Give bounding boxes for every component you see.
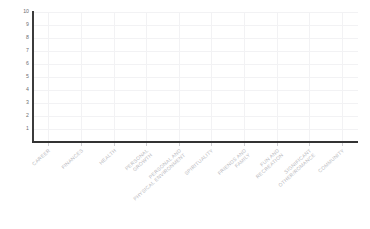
x-tickmark (211, 143, 212, 146)
y-tick-label: 8 (13, 35, 29, 40)
gridline-vertical (179, 12, 180, 142)
x-tickmark (114, 143, 115, 146)
y-axis-tick-labels: 10 9 8 7 6 5 4 3 2 1 (10, 12, 29, 142)
y-tick-label: 6 (13, 61, 29, 66)
x-category-label-health: HEALTH (98, 148, 117, 166)
x-tickmark (81, 143, 82, 146)
x-category-label-career: CAREER (31, 148, 51, 167)
gridline-vertical (81, 12, 82, 142)
x-category-label-community: COMMUNITY (317, 148, 345, 174)
gridline-vertical (309, 12, 310, 142)
x-category-label-spirituality: SPIRITUALITY (184, 148, 215, 177)
gridline-vertical (211, 12, 212, 142)
x-tickmark (48, 143, 49, 146)
y-axis (32, 11, 34, 143)
x-tickmark (277, 143, 278, 146)
x-tickmark (244, 143, 245, 146)
gridline-vertical (48, 12, 49, 142)
y-tick-label: 4 (13, 87, 29, 92)
gridline-vertical (146, 12, 147, 142)
wheel-of-life-chart: 10 9 8 7 6 5 4 3 2 1 CAREER FINANCES HEA… (0, 0, 370, 229)
gridline-vertical (244, 12, 245, 142)
y-tick-label: 9 (13, 22, 29, 27)
x-tickmark (179, 143, 180, 146)
y-tick-label: 2 (13, 113, 29, 118)
x-tickmark (309, 143, 310, 146)
x-tickmark (146, 143, 147, 146)
x-tickmark (342, 143, 343, 146)
gridline-vertical (277, 12, 278, 142)
gridline-vertical (342, 12, 343, 142)
y-tick-label: 5 (13, 74, 29, 79)
gridline-vertical (114, 12, 115, 142)
plot-area (32, 12, 358, 142)
y-tick-label: 3 (13, 100, 29, 105)
y-tick-label: 1 (13, 126, 29, 131)
x-category-label-finances: FINANCES (61, 148, 85, 170)
x-category-label-friends-family: FRIENDS AND FAMILY (217, 148, 252, 181)
y-tick-label: 7 (13, 48, 29, 53)
y-tick-label: 10 (13, 9, 29, 14)
